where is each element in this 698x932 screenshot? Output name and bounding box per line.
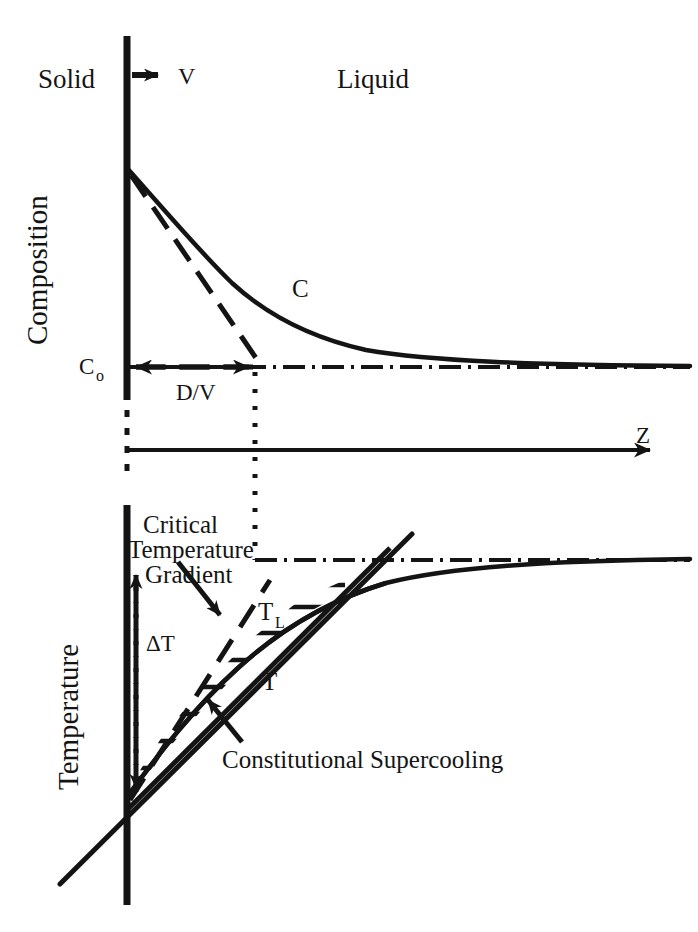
constitutional-supercooling-figure: Solid Liquid V Composition C C o D/V Z T… [0,0,698,932]
svg-text:Critical: Critical [143,511,218,538]
composition-axis-label: Composition [21,195,53,345]
delta-t-label: ΔT [146,631,175,656]
t-curve-label: T [262,668,277,695]
svg-text:C: C [79,354,94,379]
svg-text:L: L [275,614,285,631]
liquid-phase-label: Liquid [337,64,409,94]
svg-text:o: o [96,367,104,384]
svg-text:Temperature: Temperature [128,536,254,563]
z-axis-label: Z [636,423,650,448]
composition-curve-label: C [292,275,309,302]
figure-background [0,0,698,932]
dv-distance-label: D/V [176,380,216,405]
solid-phase-label: Solid [38,64,96,94]
svg-text:T: T [258,598,273,625]
temperature-axis-label: Temperature [52,644,84,790]
constitutional-supercooling-label: Constitutional Supercooling [222,746,504,773]
velocity-label: V [178,63,196,89]
